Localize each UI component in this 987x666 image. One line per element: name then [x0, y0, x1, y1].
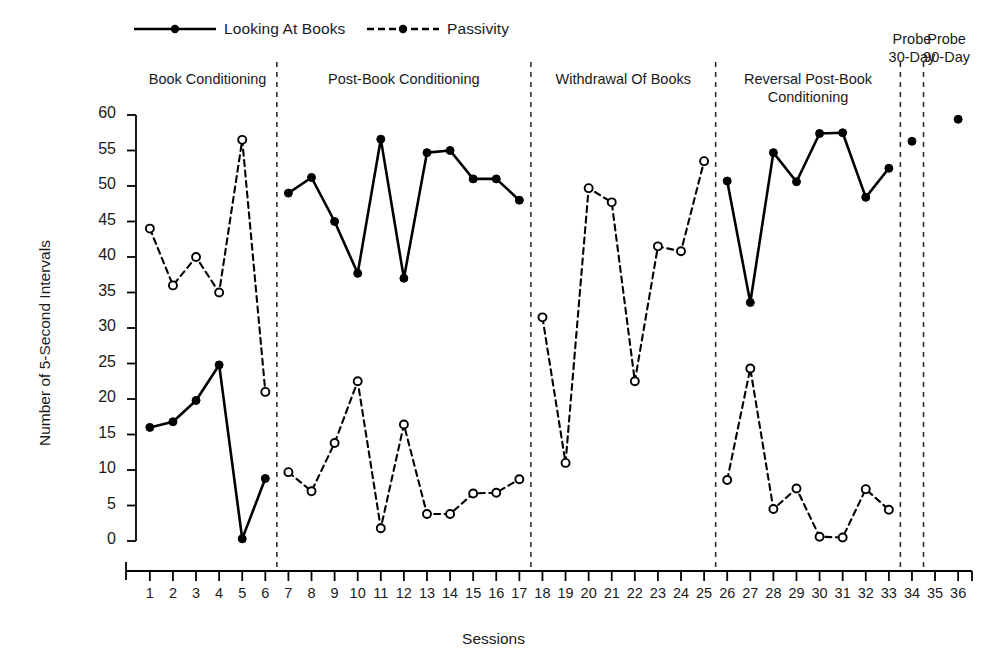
data-point	[354, 377, 362, 385]
data-point	[792, 484, 800, 492]
x-tick-label: 16	[483, 585, 509, 601]
series-line	[288, 381, 519, 528]
phase-label-2: Post-Book Conditioning	[289, 70, 519, 88]
data-point	[631, 377, 639, 385]
series-line	[727, 368, 889, 537]
phase-label-4: Reversal Post-Book Conditioning	[693, 70, 923, 106]
x-tick-label: 34	[899, 585, 925, 601]
y-tick-label: 35	[74, 282, 116, 300]
x-tick-label: 29	[783, 585, 809, 601]
data-point	[400, 421, 408, 429]
data-point	[284, 468, 292, 476]
x-tick-label: 6	[252, 585, 278, 601]
data-point	[538, 313, 546, 321]
y-tick-label: 5	[74, 495, 116, 513]
x-tick-label: 23	[645, 585, 671, 601]
data-point	[146, 423, 154, 431]
data-point	[169, 418, 177, 426]
data-point	[308, 173, 316, 181]
data-point	[954, 115, 962, 123]
data-point	[769, 505, 777, 513]
data-point	[700, 157, 708, 165]
x-tick-label: 24	[668, 585, 694, 601]
series-line	[150, 365, 265, 539]
x-tick-label: 15	[460, 585, 486, 601]
x-tick-label: 11	[368, 585, 394, 601]
x-tick-label: 20	[576, 585, 602, 601]
data-point	[354, 269, 362, 277]
series-line	[727, 133, 889, 303]
data-point	[215, 361, 223, 369]
data-point	[377, 135, 385, 143]
y-tick-label: 0	[74, 530, 116, 548]
data-point	[562, 459, 570, 467]
data-point	[677, 247, 685, 255]
data-point	[446, 510, 454, 518]
series-line	[288, 139, 519, 278]
x-tick-label: 36	[945, 585, 971, 601]
x-tick-label: 33	[876, 585, 902, 601]
y-tick-label: 45	[74, 211, 116, 229]
data-point	[816, 533, 824, 541]
series-line	[542, 161, 704, 463]
x-tick-label: 22	[622, 585, 648, 601]
y-tick-label: 10	[74, 459, 116, 477]
data-point	[492, 489, 500, 497]
data-point	[723, 177, 731, 185]
data-point	[885, 506, 893, 514]
x-tick-label: 9	[322, 585, 348, 601]
data-point	[515, 196, 523, 204]
x-tick-label: 19	[553, 585, 579, 601]
x-tick-label: 10	[345, 585, 371, 601]
data-point	[862, 193, 870, 201]
data-point	[839, 129, 847, 137]
data-point	[746, 364, 754, 372]
data-point	[377, 524, 385, 532]
data-point	[816, 129, 824, 137]
y-tick-label: 30	[74, 317, 116, 335]
x-tick-label: 32	[853, 585, 879, 601]
series-looking-at-books	[146, 115, 962, 543]
data-point	[169, 281, 177, 289]
y-tick-label: 15	[74, 424, 116, 442]
x-tick-label: 35	[922, 585, 948, 601]
x-tick-label: 31	[830, 585, 856, 601]
data-point	[608, 198, 616, 206]
data-point	[862, 485, 870, 493]
data-point	[723, 476, 731, 484]
data-point	[515, 475, 523, 483]
x-tick-label: 13	[414, 585, 440, 601]
data-point	[192, 253, 200, 261]
x-tick-label: 4	[206, 585, 232, 601]
data-point	[446, 147, 454, 155]
x-axis-title: Sessions	[0, 630, 987, 648]
x-tick-label: 25	[691, 585, 717, 601]
data-point	[792, 178, 800, 186]
data-point	[192, 396, 200, 404]
x-tick-label: 21	[599, 585, 625, 601]
data-point	[261, 475, 269, 483]
data-point	[331, 439, 339, 447]
x-tick-label: 12	[391, 585, 417, 601]
y-tick-label: 55	[74, 140, 116, 158]
y-tick-label: 40	[74, 246, 116, 264]
series-line	[150, 140, 265, 392]
x-tick-label: 7	[275, 585, 301, 601]
y-tick-label: 60	[74, 104, 116, 122]
y-tick-label: 20	[74, 388, 116, 406]
x-tick-label: 3	[183, 585, 209, 601]
phase-label-6: Probe 90-Day	[832, 30, 987, 66]
x-tick-label: 5	[229, 585, 255, 601]
y-axis-title: Number of 5-Second Intervals	[36, 240, 54, 446]
data-point	[839, 533, 847, 541]
data-point	[238, 136, 246, 144]
data-point	[261, 388, 269, 396]
data-point	[146, 225, 154, 233]
x-tick-label: 18	[529, 585, 555, 601]
x-tick-label: 26	[714, 585, 740, 601]
data-point	[331, 218, 339, 226]
data-point	[400, 274, 408, 282]
data-point	[885, 164, 893, 172]
data-point	[654, 242, 662, 250]
x-tick-label: 2	[160, 585, 186, 601]
